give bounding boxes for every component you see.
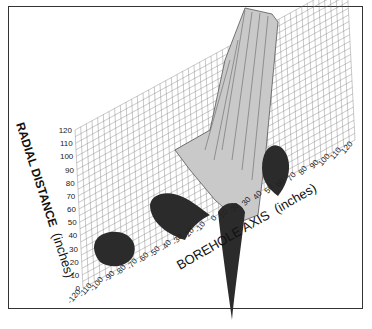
radial-tick-label: 80	[66, 179, 75, 188]
radial-tick-label: 90	[65, 166, 74, 175]
radial-tick-label: 50	[68, 218, 77, 227]
radial-tick-label: 100	[60, 152, 74, 161]
surface-plot: 0102030405060708090100110120 -120-110-10…	[0, 0, 372, 329]
radial-tick-label: 70	[66, 192, 75, 201]
radial-tick-label: 60	[67, 205, 76, 214]
radial-tick-label: 120	[59, 126, 73, 135]
grid-line	[75, 0, 347, 137]
radial-tick-label: 110	[60, 139, 73, 148]
radial-tick-label: 40	[68, 231, 77, 240]
